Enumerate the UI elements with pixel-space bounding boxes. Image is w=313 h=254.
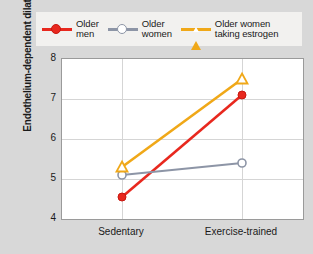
data-point-2-1[interactable] (237, 74, 248, 84)
data-point-0-0[interactable] (118, 193, 126, 201)
plot-area (61, 58, 304, 220)
series-line-1 (122, 163, 242, 175)
legend-item-older-women[interactable]: Older women (108, 19, 172, 40)
y-tick-label-8: 8 (40, 52, 56, 63)
y-tick-label-4: 4 (40, 212, 56, 223)
legend-label-older-women-estrogen: Older women taking estrogen (215, 19, 278, 40)
legend-swatch-older-men (42, 22, 72, 36)
y-tick-label-5: 5 (40, 172, 56, 183)
legend-label-older-men: Older men (76, 19, 99, 40)
y-axis-title: Endothelium-dependent dilation (%) (22, 0, 33, 140)
legend-swatch-older-women-estrogen (181, 22, 211, 36)
x-tick-label-exercise-trained: Exercise-trained (186, 226, 296, 237)
x-tick-label-sedentary: Sedentary (66, 226, 176, 237)
series-line-0 (122, 95, 242, 197)
open-triangle-icon (191, 24, 201, 50)
chart-lines (62, 59, 303, 219)
chart-legend: Older men Older women Older women taking… (36, 12, 302, 46)
legend-item-older-men[interactable]: Older men (42, 19, 99, 40)
legend-swatch-older-women (108, 22, 138, 36)
y-tick-label-7: 7 (40, 92, 56, 103)
chart-figure: Older men Older women Older women taking… (0, 0, 313, 254)
data-point-0-1[interactable] (238, 91, 246, 99)
series-line-2 (122, 79, 242, 167)
data-point-1-1[interactable] (238, 159, 246, 167)
y-tick-label-6: 6 (40, 132, 56, 143)
legend-item-older-women-estrogen[interactable]: Older women taking estrogen (181, 19, 278, 40)
legend-label-older-women: Older women (142, 19, 172, 40)
